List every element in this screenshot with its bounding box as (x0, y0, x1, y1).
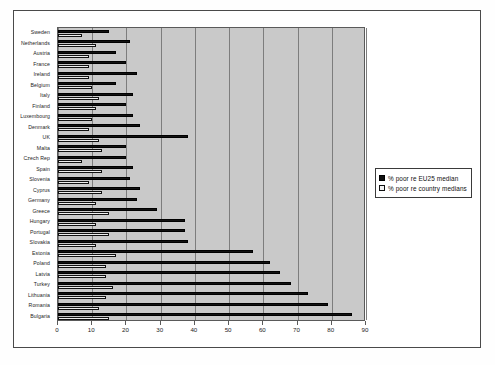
bar-row (58, 91, 364, 102)
y-axis-label: Poland (33, 260, 50, 266)
bar-row (58, 123, 364, 134)
x-axis-tick-label: 40 (190, 326, 197, 333)
bar-row (58, 81, 364, 92)
bar-row (58, 196, 364, 207)
y-axis-label: Turkey (34, 281, 50, 287)
bar-eu25-median (58, 40, 130, 43)
bar-country-median (58, 139, 99, 142)
x-axis-tick-label: 30 (156, 326, 163, 333)
y-axis-label: Czech Rep (23, 155, 50, 161)
bar-country-median (58, 244, 96, 247)
bar-eu25-median (58, 229, 185, 232)
bar-eu25-median (58, 198, 137, 201)
x-axis-tick (297, 321, 298, 325)
bar-country-median (58, 160, 82, 163)
bar-country-median (58, 128, 89, 131)
bar-country-median (58, 65, 89, 68)
legend-label-country: % poor re country medians (388, 185, 467, 192)
bar-eu25-median (58, 93, 133, 96)
bar-country-median (58, 118, 92, 121)
bar-country-median (58, 212, 109, 215)
bar-row (58, 28, 364, 39)
x-axis-tick (57, 321, 58, 325)
x-axis-tick-label: 10 (88, 326, 95, 333)
legend-label-eu25: % poor re EU25 median (388, 175, 458, 182)
bar-row (58, 291, 364, 302)
bar-row (58, 249, 364, 260)
bar-country-median (58, 44, 96, 47)
x-axis-tick (262, 321, 263, 325)
y-axis-label: Cyprus (33, 187, 50, 193)
y-axis-label: Netherlands (21, 40, 50, 46)
bar-country-median (58, 254, 116, 257)
x-axis-tick (331, 321, 332, 325)
y-axis-label: Romania (29, 302, 50, 308)
bar-row (58, 228, 364, 239)
bar-row (58, 112, 364, 123)
y-axis-label: Lithuania (28, 292, 50, 298)
x-axis: 0102030405060708090 (57, 321, 365, 341)
bar-country-median (58, 76, 89, 79)
gridline (366, 28, 367, 320)
x-axis-tick (91, 321, 92, 325)
bar-eu25-median (58, 82, 116, 85)
bar-country-median (58, 55, 89, 58)
y-axis-label: Estonia (32, 250, 50, 256)
y-axis-label: Luxembourg (20, 113, 50, 119)
y-axis-label: Sweden (31, 29, 50, 35)
x-axis-tick-label: 20 (122, 326, 129, 333)
x-axis-tick-label: 90 (362, 326, 369, 333)
bar-eu25-median (58, 114, 133, 117)
y-axis-label: Portugal (30, 229, 50, 235)
bar-eu25-median (58, 177, 130, 180)
y-axis-label: Slovakia (30, 239, 50, 245)
legend-swatch-eu25-icon (379, 175, 385, 181)
y-axis-label: Ireland (33, 71, 50, 77)
bar-row (58, 259, 364, 270)
bar-eu25-median (58, 313, 352, 316)
bar-row (58, 49, 364, 60)
bar-eu25-median (58, 51, 116, 54)
bar-row (58, 102, 364, 113)
bar-row (58, 154, 364, 165)
bar-country-median (58, 86, 92, 89)
y-axis-label: Italy (40, 92, 50, 98)
bar-country-median (58, 170, 102, 173)
x-axis-tick-label: 0 (55, 326, 58, 333)
bar-country-median (58, 275, 106, 278)
bar-country-median (58, 286, 113, 289)
bar-country-median (58, 317, 109, 320)
y-axis-label: Greece (32, 208, 50, 214)
bar-eu25-median (58, 303, 328, 306)
y-axis-label: UK (43, 134, 50, 140)
bar-row (58, 207, 364, 218)
x-axis-tick-label: 80 (327, 326, 334, 333)
bar-eu25-median (58, 282, 291, 285)
bar-row (58, 60, 364, 71)
bar-row (58, 175, 364, 186)
bar-row (58, 280, 364, 291)
bar-country-median (58, 296, 106, 299)
y-axis-label: Belgium (31, 82, 50, 88)
bar-country-median (58, 34, 82, 37)
y-axis-labels: SwedenNetherlandsAustriaFranceIrelandBel… (0, 27, 54, 321)
x-axis-tick-label: 50 (225, 326, 232, 333)
bar-eu25-median (58, 124, 140, 127)
legend-swatch-country-icon (379, 185, 385, 191)
bar-country-median (58, 97, 99, 100)
bar-row (58, 70, 364, 81)
bar-country-median (58, 233, 109, 236)
bar-eu25-median (58, 30, 109, 33)
bar-row (58, 186, 364, 197)
bar-eu25-median (58, 187, 140, 190)
bar-country-median (58, 107, 96, 110)
chart-figure: SwedenNetherlandsAustriaFranceIrelandBel… (0, 0, 495, 365)
bar-row (58, 238, 364, 249)
y-axis-label: Spain (36, 166, 50, 172)
y-axis-label: Malta (37, 145, 50, 151)
chart-legend: % poor re EU25 median % poor re country … (375, 168, 472, 198)
bar-country-median (58, 265, 106, 268)
x-axis-tick (125, 321, 126, 325)
x-axis-tick-label: 60 (259, 326, 266, 333)
y-axis-label: Finland (32, 103, 50, 109)
